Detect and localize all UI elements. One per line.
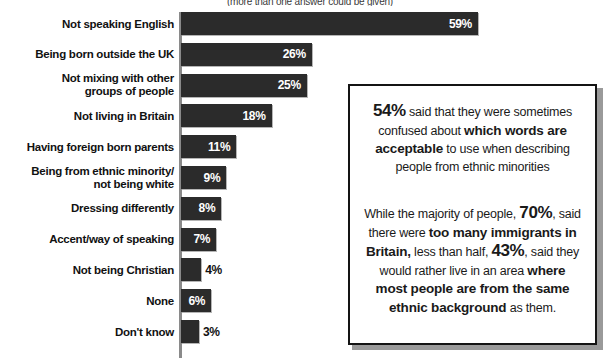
bar-row-label: Not speaking English [0,17,174,30]
bar: 25% [181,74,307,97]
bar-value-label: 8% [199,201,216,215]
bar-row: Dressing differently8% [0,197,340,220]
bar-row-label: None [0,294,174,307]
bar-row-label: Accent/way of speaking [0,233,174,246]
bar-value-label: 18% [242,109,265,123]
bar [181,320,199,343]
bar: 18% [181,104,272,127]
bar-row: None6% [0,289,340,312]
bar-row: Accent/way of speaking7% [0,228,340,251]
bar-value-label: 11% [208,140,230,154]
horizontal-bar-chart: Not speaking English59%Being born outsid… [0,8,340,358]
bar: 8% [181,197,221,220]
bar: 6% [181,289,211,312]
bar: 26% [181,43,312,66]
stat-text-2a: While the majority of people, [364,207,519,221]
bar-row: Being from ethnic minority/not being whi… [0,166,340,189]
bar: 59% [181,12,478,35]
bar-value-label: 25% [278,78,301,92]
bar [181,258,201,281]
stat-panel: 54% said that they were sometimes confus… [348,84,597,345]
bar-row: Not mixing with othergroups of people25% [0,74,340,97]
bar-value-label: 9% [204,171,221,185]
bar-value-label: 59% [449,17,472,31]
bar: 11% [181,135,236,158]
bar: 9% [181,166,226,189]
stat-text-2c: less than half, [411,245,492,259]
bar-row-label: Dressing differently [0,202,174,215]
chart-subtitle: (more than one answer could be given) [190,0,430,6]
bar: 7% [181,228,216,251]
bar-row: Not speaking English59% [0,12,340,35]
bar-value-label: 4% [205,263,222,277]
stat-paragraph-1: 54% said that they were sometimes confus… [363,102,582,176]
bar-row-label: Not being Christian [0,263,174,276]
bar-row-label: Having foreign born parents [0,140,174,153]
bar-row-label: Being born outside the UK [0,48,174,61]
bar-value-label: 26% [283,47,306,61]
stat-text-2e: as them. [506,301,556,315]
bar-row-label: Being from ethnic minority/not being whi… [0,165,174,191]
bar-row: 3%Don't know [0,320,340,343]
bar-row: 4%Not being Christian [0,258,340,281]
bar-value-label: 7% [193,232,210,246]
bar-value-label: 3% [203,325,220,339]
bar-row-label: Not living in Britain [0,109,174,122]
stat-value-70: 70% [519,203,552,222]
stat-paragraph-2: While the majority of people, 70%, said … [363,204,582,317]
stat-value-54: 54% [373,101,406,120]
bar-row: Not living in Britain18% [0,104,340,127]
bar-row: Being born outside the UK26% [0,43,340,66]
bar-row: Having foreign born parents11% [0,135,340,158]
stat-value-43: 43% [491,241,524,260]
bar-row-label: Not mixing with othergroups of people [0,72,174,98]
bar-value-label: 6% [188,294,205,308]
bar-row-label: Don't know [0,325,174,338]
